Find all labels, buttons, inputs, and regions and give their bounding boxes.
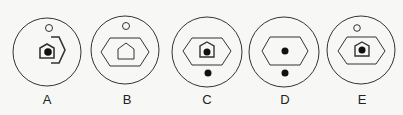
option-label-b: B [117,92,137,107]
option-label-e: E [352,92,372,107]
filled-dot-icon [359,47,366,54]
option-e-figure [327,16,395,84]
filled-dot-icon [204,49,211,56]
filled-dot-below-icon [205,70,212,77]
filled-dot-below-icon [282,70,289,77]
hexagon-fragment-icon [51,37,65,63]
option-b-figure [91,16,159,84]
small-open-circle-icon [46,25,53,32]
pentagon-icon [118,43,134,59]
option-label-d: D [275,92,295,107]
option-c-figure [172,17,242,87]
option-label-c: C [197,92,217,107]
outer-circle-b [91,16,159,84]
option-d-figure [249,17,319,87]
small-open-circle-icon [123,23,130,30]
option-label-a: A [37,92,57,107]
option-a-figure [13,18,81,86]
filled-dot-icon [44,48,52,56]
hexagon-icon [101,38,149,66]
small-open-circle-icon [354,25,361,32]
filled-dot-icon [282,48,289,55]
